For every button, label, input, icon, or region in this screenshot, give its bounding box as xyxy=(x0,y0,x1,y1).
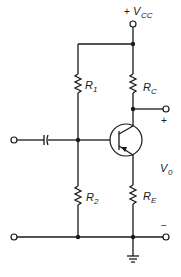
input-terminal[interactable] xyxy=(11,137,17,143)
re-label-sub: E xyxy=(151,196,157,205)
pnp-transistor xyxy=(110,124,142,156)
r2-ground-node xyxy=(76,235,80,239)
r2-resistor xyxy=(75,140,81,237)
rc-label: R xyxy=(143,81,151,93)
rc-label-sub: C xyxy=(151,87,157,96)
ground-icon xyxy=(127,237,139,262)
amplifier-schematic: + V CC R 1 R C + xyxy=(0,0,181,277)
r2-label: R xyxy=(86,191,94,203)
output-plus-label: + xyxy=(161,115,167,126)
transistor-collector-lead xyxy=(119,126,133,134)
re-label: R xyxy=(143,190,151,202)
rc-resistor xyxy=(130,44,136,109)
vcc-label-sub: CC xyxy=(141,11,153,20)
r1-label: R xyxy=(85,79,93,91)
output-plus-terminal[interactable] xyxy=(163,106,169,112)
input-ground-terminal[interactable] xyxy=(11,234,17,240)
output-minus-terminal[interactable] xyxy=(163,234,169,240)
input-capacitor xyxy=(17,135,78,145)
r1-label-sub: 1 xyxy=(93,85,97,94)
vcc-plus-sign: + xyxy=(124,6,130,17)
r2-label-sub: 2 xyxy=(93,197,99,206)
vcc-terminal xyxy=(130,21,136,44)
vout-label-sub: 0 xyxy=(168,168,173,177)
re-resistor xyxy=(130,155,136,237)
output-minus-label: − xyxy=(161,220,167,231)
r1-resistor xyxy=(75,44,81,140)
